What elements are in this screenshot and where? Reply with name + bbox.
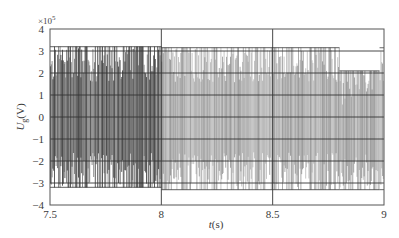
x-tick-label: 8 (159, 208, 165, 220)
y-tick-label: 1 (39, 89, 45, 101)
y-tick-label: −3 (32, 177, 44, 189)
x-tick-label: 9 (381, 208, 387, 220)
x-axis-label: t(s) (209, 218, 224, 231)
y-axis-ticks: −4−3−2−101234 (32, 23, 44, 211)
chart: −4−3−2−101234 7.588.59 ×105 Ug(V) t(s) (0, 0, 399, 238)
y-tick-label: 0 (39, 111, 45, 123)
x-tick-label: 8.5 (266, 208, 280, 220)
y-tick-label: 3 (39, 45, 45, 57)
y-axis-label: Ug(V) (14, 103, 29, 131)
y-tick-label: 2 (39, 67, 45, 79)
y-scale-label: ×105 (38, 14, 56, 26)
x-tick-label: 7.5 (43, 208, 57, 220)
y-tick-label: −2 (32, 155, 44, 167)
plot-area (50, 29, 384, 205)
y-tick-label: −1 (32, 133, 44, 145)
